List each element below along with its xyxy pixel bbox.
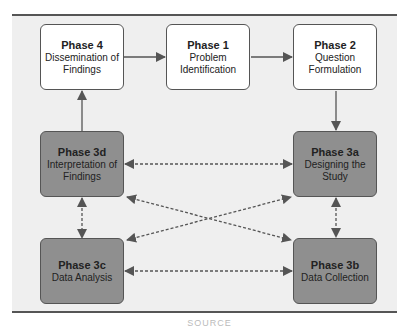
node-phase3d: Phase 3d Interpretation of Findings (40, 131, 124, 197)
node-phase2: Phase 2 Question Formulation (293, 24, 377, 90)
node-title: Phase 1 (187, 39, 229, 51)
node-description: Data Analysis (50, 272, 115, 284)
node-description: Interpretation of Findings (41, 159, 123, 183)
node-title: Phase 3d (58, 146, 106, 158)
node-title: Phase 3c (58, 259, 106, 271)
node-title: Phase 3b (311, 259, 359, 271)
node-description: Question Formulation (294, 52, 376, 76)
node-phase3b: Phase 3b Data Collection (293, 238, 377, 304)
node-phase1: Phase 1 Problem Identification (166, 24, 250, 90)
node-phase4: Phase 4 Dissemination of Findings (40, 24, 124, 90)
node-phase3c: Phase 3c Data Analysis (40, 238, 124, 304)
node-description: Problem Identification (167, 52, 249, 76)
node-title: Phase 2 (314, 39, 356, 51)
node-title: Phase 3a (311, 146, 359, 158)
source-caption: SOURCE (0, 318, 419, 328)
node-description: Designing the Study (294, 159, 376, 183)
node-description: Dissemination of Findings (41, 52, 123, 76)
node-phase3a: Phase 3a Designing the Study (293, 131, 377, 197)
node-description: Data Collection (299, 272, 371, 284)
node-title: Phase 4 (61, 39, 103, 51)
